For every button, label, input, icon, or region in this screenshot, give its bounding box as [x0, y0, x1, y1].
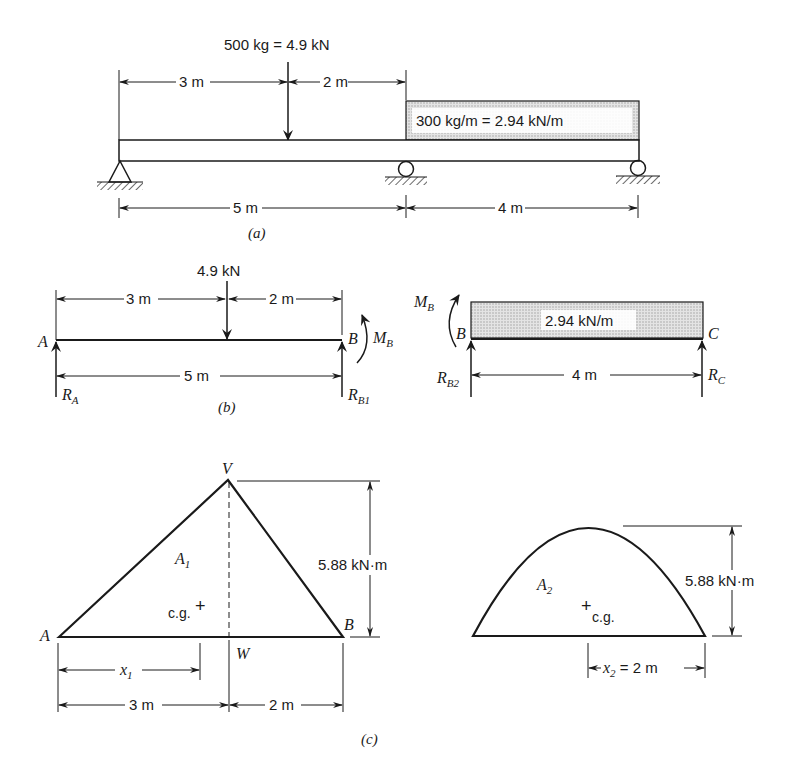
- cg-label: c.g.: [592, 609, 615, 625]
- x1-label: x1: [119, 661, 133, 681]
- dim-4m-label: 4 m: [498, 199, 523, 216]
- beam-diagram: 500 kg = 4.9 kN 3 m 2 m 300 kg/m = 2.94 …: [0, 0, 809, 778]
- distributed-load-label: 300 kg/m = 2.94 kN/m: [416, 112, 563, 129]
- caption-a: (a): [248, 225, 266, 242]
- reaction-c-label: RC: [707, 366, 726, 386]
- dim-2m-label: 2 m: [269, 696, 294, 713]
- distributed-load-label: 2.94 kN/m: [545, 312, 613, 329]
- beam: [119, 140, 639, 161]
- dim-5m-label: 5 m: [184, 367, 209, 384]
- reaction-a-label: RA: [61, 386, 79, 406]
- label-w: W: [236, 645, 251, 662]
- panel-b-right: 2.94 kN/m MB B C 4 m RB2 RC: [413, 293, 726, 397]
- panel-c-parabola: A2 + c.g. 5.88 kN·m x2 = 2 m: [473, 526, 754, 679]
- area-a2-label: A2: [536, 576, 553, 596]
- panel-b-left: 4.9 kN 3 m 2 m A B MB 5 m RA RB1: [37, 262, 393, 406]
- dim-5m-label: 5 m: [233, 199, 258, 216]
- dim-3m-label: 3 m: [129, 696, 154, 713]
- pin-support-icon: [109, 161, 131, 182]
- label-b: B: [344, 616, 354, 633]
- point-load-label: 500 kg = 4.9 kN: [224, 36, 329, 53]
- roller-support-icon: [631, 161, 646, 176]
- caption-c: (c): [361, 731, 378, 748]
- caption-b: (b): [218, 399, 236, 416]
- reaction-b1-label: RB1: [347, 386, 370, 406]
- label-b: B: [456, 325, 466, 342]
- roller-support-icon: [399, 162, 414, 177]
- panel-a: 500 kg = 4.9 kN 3 m 2 m 300 kg/m = 2.94 …: [97, 36, 660, 242]
- label-v: V: [222, 460, 234, 477]
- dim-2m-label: 2 m: [323, 73, 348, 90]
- ground-hatch: [616, 176, 660, 184]
- label-b: B: [348, 330, 358, 347]
- cg-cross-icon: +: [581, 596, 592, 616]
- dim-4m-label: 4 m: [572, 366, 597, 383]
- moment-label: MB: [413, 293, 434, 313]
- panel-c-triangle: V A B W A1 c.g. + 5.88 kN·m x1 3 m 2 m (…: [39, 460, 387, 748]
- moment-label: MB: [372, 329, 393, 349]
- cg-cross-icon: +: [195, 596, 206, 616]
- reaction-b2-label: RB2: [436, 369, 460, 389]
- cg-label: c.g.: [168, 605, 191, 621]
- ground-hatch: [385, 177, 427, 185]
- area-a1-label: A1: [174, 550, 190, 570]
- point-load-label: 4.9 kN: [197, 262, 240, 279]
- moment-parabola: [473, 528, 705, 636]
- ground-hatch: [97, 182, 143, 190]
- height-label: 5.88 kN·m: [685, 572, 754, 589]
- x2-label: x2 = 2 m: [602, 659, 658, 679]
- height-label: 5.88 kN·m: [318, 556, 387, 573]
- moment-arrow-icon: [357, 315, 367, 363]
- label-a: A: [37, 333, 48, 350]
- label-c: C: [708, 325, 719, 342]
- dim-3m-label: 3 m: [126, 290, 151, 307]
- label-a: A: [39, 627, 50, 644]
- dim-3m-label: 3 m: [179, 73, 204, 90]
- dim-2m-label: 2 m: [269, 290, 294, 307]
